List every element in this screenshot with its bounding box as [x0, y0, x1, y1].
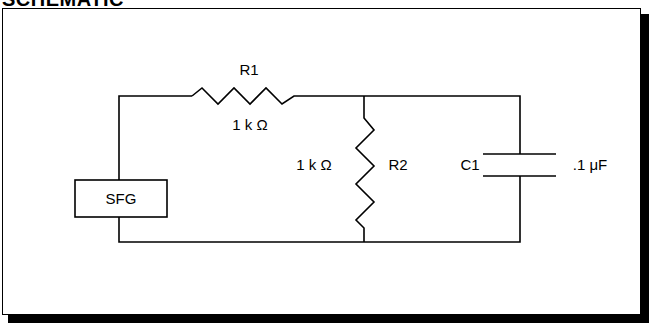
wire-bottom [119, 176, 520, 242]
circuit-diagram: SFG R1 1 k Ω 1 k Ω R2 C1 .1 μF [0, 0, 649, 323]
r2-name: R2 [388, 156, 407, 173]
c1-name: C1 [460, 156, 479, 173]
r1-value: 1 k Ω [232, 116, 267, 133]
resistor-r1-symbol [192, 88, 300, 104]
sfg-label: SFG [106, 190, 137, 207]
wire-top [300, 96, 520, 154]
resistor-r2-symbol [356, 96, 374, 242]
r1-name: R1 [239, 61, 258, 78]
r2-value: 1 k Ω [296, 156, 331, 173]
c1-value: .1 μF [573, 156, 607, 173]
wire-source-top [119, 96, 192, 180]
